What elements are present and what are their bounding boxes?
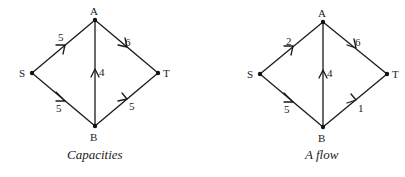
node-label-b: B <box>318 132 325 144</box>
node-label-s: S <box>247 68 253 80</box>
edge-value-b-a: 4 <box>327 67 333 79</box>
edge-value-b-a: 4 <box>99 66 105 78</box>
node-label-t: T <box>392 68 399 80</box>
edge-value-s-b: 5 <box>56 102 62 114</box>
node-a <box>321 20 325 24</box>
edge-s-a <box>260 22 323 74</box>
arrow-s-b-icon <box>56 92 65 101</box>
edge-value-s-a: 5 <box>58 31 64 43</box>
node-label-b: B <box>90 131 97 143</box>
node-b <box>321 125 325 129</box>
node-label-t: T <box>163 67 170 79</box>
edge-value-s-b: 5 <box>284 103 290 115</box>
node-t <box>385 72 389 76</box>
node-s <box>30 71 34 75</box>
caption-capacities: Capacities <box>67 147 123 162</box>
capacities-graph: S A T B 5 6 5 5 4 Capacities <box>19 5 170 162</box>
node-label-a: A <box>90 5 98 17</box>
node-label-a: A <box>318 7 326 19</box>
arrow-b-t-icon <box>347 94 356 103</box>
edge-value-a-t: 6 <box>125 36 131 48</box>
edge-s-a <box>32 20 95 73</box>
edge-value-b-t: 5 <box>129 100 135 112</box>
edge-value-a-t: 6 <box>355 36 361 48</box>
node-t <box>156 71 160 75</box>
flow-network-figure: S A T B 5 6 5 5 4 Capacities S A T B <box>0 0 405 177</box>
edge-value-s-a: 2 <box>286 35 292 47</box>
node-b <box>93 124 97 128</box>
arrow-b-t-icon <box>118 93 127 101</box>
caption-a-flow: A flow <box>304 147 339 162</box>
arrow-s-b-icon <box>284 93 293 102</box>
edge-value-b-t: 1 <box>358 102 364 114</box>
node-s <box>258 72 262 76</box>
node-label-s: S <box>19 67 25 79</box>
node-a <box>93 18 97 22</box>
flow-graph: S A T B 2 6 5 1 4 A flow <box>247 7 399 162</box>
